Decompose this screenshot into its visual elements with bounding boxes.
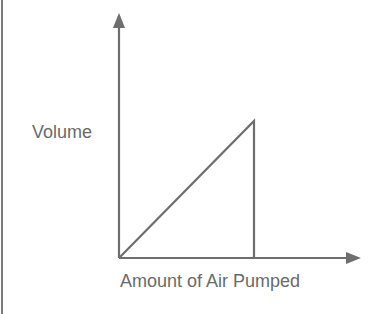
data-line-volume: [120, 121, 254, 258]
chart-plot-area: [0, 0, 380, 314]
y-axis-label: Volume: [32, 122, 92, 143]
x-axis-label: Amount of Air Pumped: [120, 271, 300, 292]
